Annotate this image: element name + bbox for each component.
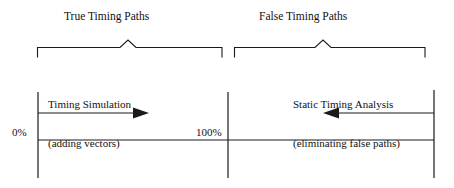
group-label-true-timing-paths: True Timing Paths [64, 10, 149, 23]
group-label-false-timing-paths: False Timing Paths [259, 10, 347, 23]
annotation-timing-simulation-line2: (adding vectors) [48, 137, 131, 150]
brace-false-timing-paths [235, 40, 426, 58]
annotation-static-timing-analysis: Static Timing Analysis (eliminating fals… [293, 72, 400, 176]
annotation-timing-simulation-line1: Timing Simulation [48, 98, 131, 111]
annotation-static-timing-analysis-line1: Static Timing Analysis [293, 98, 400, 111]
timing-paths-diagram: True Timing Paths False Timing Paths Tim… [0, 0, 454, 188]
axis-label-hundred-percent: 100% [196, 126, 222, 139]
annotation-timing-simulation: Timing Simulation (adding vectors) [48, 72, 131, 176]
axis-label-zero-percent: 0% [12, 126, 27, 139]
brace-true-timing-paths [38, 40, 223, 58]
annotation-static-timing-analysis-line2: (eliminating false paths) [293, 137, 400, 150]
